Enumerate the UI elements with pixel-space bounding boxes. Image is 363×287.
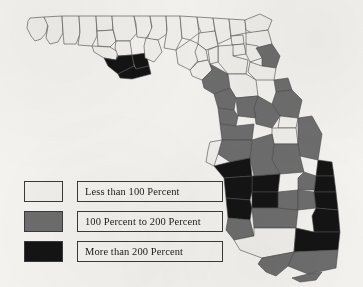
legend-swatch-high xyxy=(24,241,63,262)
county-brevard xyxy=(298,116,322,160)
county-miami-dade xyxy=(288,250,338,274)
legend-label-low: Less than 100 Percent xyxy=(77,181,223,202)
legend-label-high: More than 200 Percent xyxy=(77,241,223,262)
county-desoto xyxy=(252,192,278,208)
county-madison xyxy=(180,16,199,40)
county-hardee xyxy=(252,174,280,192)
county-orange xyxy=(272,128,298,144)
county-bradford xyxy=(232,44,246,56)
county-pasco xyxy=(220,124,254,140)
legend-label-mid: 100 Percent to 200 Percent xyxy=(77,211,223,232)
county-martin xyxy=(314,192,338,210)
county-hendry xyxy=(252,208,298,228)
county-escambia xyxy=(27,17,48,41)
county-union xyxy=(231,35,244,45)
county-glades xyxy=(298,190,316,210)
county-palm-beach xyxy=(312,208,340,232)
county-flagler xyxy=(274,78,292,92)
county-calhoun xyxy=(115,41,132,56)
map-figure: Less than 100 Percent 100 Percent to 200… xyxy=(0,0,363,287)
county-jefferson xyxy=(164,16,182,50)
county-seminole xyxy=(278,116,298,128)
county-okeechobee xyxy=(298,172,316,190)
county-okaloosa xyxy=(62,16,80,44)
legend-swatch-mid xyxy=(24,211,63,232)
county-sarasota xyxy=(224,176,252,200)
county-holmes xyxy=(96,16,113,31)
county-walton xyxy=(78,16,97,46)
county-wakulla xyxy=(144,38,162,62)
county-washington xyxy=(97,30,116,47)
county-baker xyxy=(229,19,246,36)
county-jackson xyxy=(112,16,137,41)
legend-row-high: More than 200 Percent xyxy=(24,240,223,262)
legend-row-mid: 100 Percent to 200 Percent xyxy=(24,210,223,232)
legend-swatch-low xyxy=(24,181,63,202)
county-st-lucie xyxy=(314,176,336,192)
legend-row-low: Less than 100 Percent xyxy=(24,180,223,202)
county-charlotte xyxy=(226,198,252,220)
county-indian-river xyxy=(316,160,334,176)
county-hernando xyxy=(218,108,238,126)
map-legend: Less than 100 Percent 100 Percent to 200… xyxy=(24,180,223,262)
